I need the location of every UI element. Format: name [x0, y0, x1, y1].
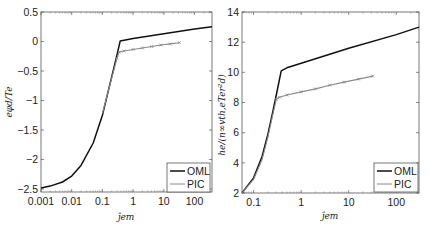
- right-x-axis-label: ĵem: [320, 211, 339, 221]
- left-y-tick-label: −0.5: [17, 65, 38, 77]
- right-y-tick-label: 6: [233, 126, 239, 138]
- left-legend-pic-label: PIC: [187, 178, 205, 190]
- left-y-tick-label: −1.5: [17, 124, 38, 136]
- left-y-tick-label: −1: [26, 94, 38, 106]
- left-x-tick-label: 10: [158, 195, 170, 207]
- right-y-tick-label: 2: [233, 187, 239, 199]
- right-x-tick-label: 0.1: [246, 196, 261, 208]
- left-y-tick-label: −2: [26, 153, 38, 165]
- right-y-tick-label: 4: [233, 157, 239, 169]
- right-legend: OML PIC: [374, 163, 418, 192]
- right-chart: 0.11101001412108642 ĵem he/(n∞vth,eTer²d…: [217, 6, 419, 221]
- left-legend-oml-label: OML: [187, 165, 210, 177]
- left-x-tick-label: 0.1: [95, 195, 110, 207]
- left-legend: OML PIC: [167, 163, 210, 192]
- right-y-tick-label: 12: [227, 36, 239, 48]
- left-y-tick-label: 0.5: [23, 6, 38, 18]
- left-y-tick-label: 0: [32, 35, 38, 47]
- left-x-axis-label: ĵem: [116, 212, 135, 222]
- right-series-pic-line: [242, 76, 373, 193]
- right-legend-oml-label: OML: [394, 165, 417, 177]
- right-x-tick-label: 100: [388, 196, 406, 208]
- left-y-tick-label: −2.5: [17, 183, 38, 195]
- right-x-tick-label: 1: [298, 196, 304, 208]
- right-y-tick-label: 8: [233, 96, 239, 108]
- left-y-axis-label: eφd/Te: [4, 86, 14, 117]
- left-series-pic-line: [102, 43, 179, 114]
- right-y-tick-label: 10: [227, 66, 239, 78]
- left-x-tick-label: 100: [186, 195, 204, 207]
- left-chart: 0.0010.010.11101000.50−0.5−1−1.5−2−2.5 ĵ…: [4, 6, 212, 222]
- left-x-tick-label: 0.001: [28, 195, 54, 207]
- left-x-tick-label: 0.01: [61, 195, 82, 207]
- figure: 0.0010.010.11101000.50−0.5−1−1.5−2−2.5 ĵ…: [0, 0, 430, 229]
- right-x-tick-label: 10: [343, 196, 355, 208]
- left-x-tick-label: 1: [130, 195, 136, 207]
- right-y-tick-label: 14: [227, 6, 239, 18]
- right-y-axis-label: he/(n∞vth,eTer²d): [217, 74, 227, 156]
- right-legend-pic-label: PIC: [394, 178, 412, 190]
